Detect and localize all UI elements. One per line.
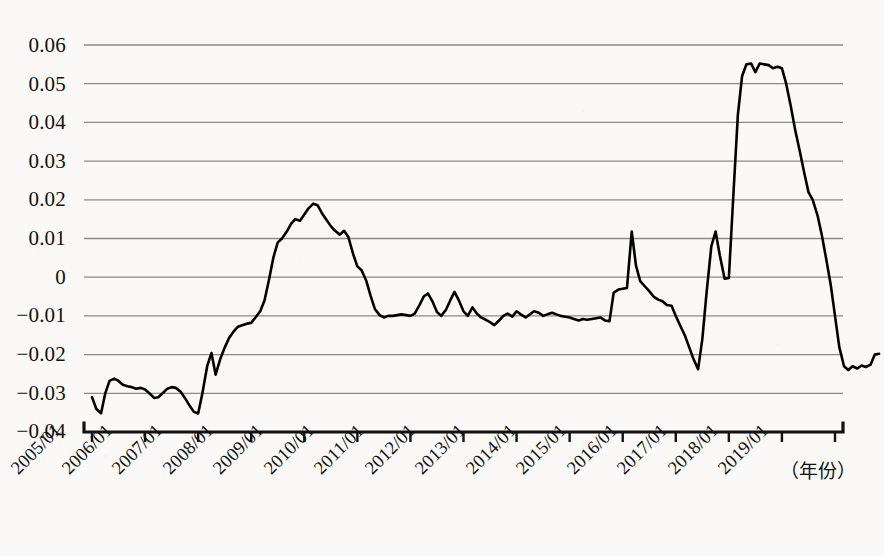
chart-container: 0.06 0.05 0.04 0.03 0.02 0.01 0 −0.01 −0… bbox=[0, 0, 884, 556]
x-axis-line bbox=[84, 423, 843, 432]
chart-svg bbox=[0, 0, 884, 556]
gridlines-group bbox=[84, 45, 843, 432]
x-axis-group bbox=[84, 423, 843, 442]
